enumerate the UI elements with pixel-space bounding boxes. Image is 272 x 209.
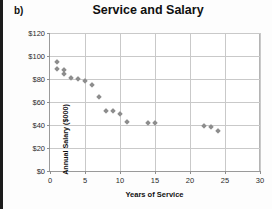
y-tick-mark xyxy=(47,148,50,149)
x-tick-label: 15 xyxy=(151,176,159,185)
x-tick-mark xyxy=(50,171,51,174)
x-tick-mark xyxy=(260,171,261,174)
x-tick-mark xyxy=(225,171,226,174)
y-tick-label: $80 xyxy=(32,75,45,84)
figure-panel: b) Service and Salary $0$20$40$60$80$100… xyxy=(0,0,272,209)
y-tick-label: $60 xyxy=(32,98,45,107)
x-axis-title: Years of Service xyxy=(49,190,260,199)
gridline-vertical xyxy=(155,33,156,171)
scatter-point xyxy=(110,108,116,114)
x-tick-mark xyxy=(85,171,86,174)
scatter-point xyxy=(82,78,88,84)
y-tick-label: $100 xyxy=(28,52,45,61)
x-tick-mark xyxy=(155,171,156,174)
x-tick-label: 5 xyxy=(83,176,87,185)
x-tick-label: 10 xyxy=(116,176,124,185)
x-tick-mark xyxy=(120,171,121,174)
gridline-vertical xyxy=(85,33,86,171)
plot-area: $0$20$40$60$80$100$120 051015202530 Annu… xyxy=(49,33,260,172)
panel-label: b) xyxy=(14,5,23,16)
x-tick-label: 20 xyxy=(186,176,194,185)
scatter-point xyxy=(124,119,130,125)
y-tick-label: $120 xyxy=(28,29,45,38)
y-tick-label: $0 xyxy=(37,167,45,176)
y-tick-mark xyxy=(47,125,50,126)
y-tick-mark xyxy=(47,102,50,103)
gridline-vertical xyxy=(190,33,191,171)
scatter-point xyxy=(54,59,60,65)
gridline-vertical xyxy=(225,33,226,171)
x-tick-mark xyxy=(190,171,191,174)
y-tick-label: $20 xyxy=(32,144,45,153)
y-tick-mark xyxy=(47,56,50,57)
x-tick-label: 0 xyxy=(48,176,52,185)
scatter-point xyxy=(117,111,123,117)
scatter-point xyxy=(89,82,95,88)
x-tick-label: 25 xyxy=(221,176,229,185)
chart-title: Service and Salary xyxy=(53,3,243,17)
y-axis-title: Annual Salary ($000) xyxy=(61,85,70,195)
scatter-point xyxy=(103,108,109,114)
scatter-point xyxy=(61,71,67,77)
scatter-point xyxy=(54,66,60,72)
scatter-point xyxy=(75,76,81,82)
scatter-point xyxy=(96,94,102,100)
gridline-vertical xyxy=(120,33,121,171)
y-tick-label: $40 xyxy=(32,121,45,130)
scatter-point xyxy=(215,128,221,134)
y-tick-mark xyxy=(47,33,50,34)
plot-wrapper: $0$20$40$60$80$100$120 051015202530 Annu… xyxy=(49,33,260,172)
y-tick-mark xyxy=(47,79,50,80)
gridline-vertical xyxy=(260,33,261,171)
x-tick-label: 30 xyxy=(256,176,264,185)
